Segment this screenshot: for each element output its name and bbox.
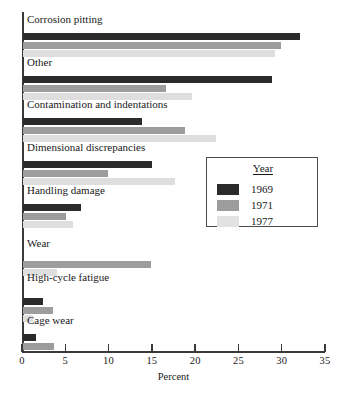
legend-title-text: Year [253, 162, 273, 175]
category-label: Cage wear [27, 315, 74, 326]
bar-group: Contamination and indentations [23, 99, 343, 141]
legend-item-1977: 1977 [217, 214, 273, 228]
bar-1971 [23, 127, 185, 134]
bar-group: Corrosion pitting [23, 14, 343, 56]
legend-label-1977: 1977 [251, 216, 273, 227]
legend-title: Year [207, 162, 319, 174]
bar-group: Cage wear [23, 315, 343, 357]
category-label: Corrosion pitting [27, 14, 102, 25]
legend-swatch-1969 [217, 184, 239, 195]
category-label: High-cycle fatigue [27, 272, 109, 283]
legend-swatch-1977 [217, 216, 239, 227]
category-label: Other [27, 57, 52, 68]
bar-1969 [23, 161, 152, 168]
bar-1969 [23, 76, 272, 83]
bar-1971 [23, 213, 66, 220]
bar-1969 [23, 334, 36, 341]
category-label: Contamination and indentations [27, 99, 168, 110]
legend-swatch-1971 [217, 200, 239, 211]
category-label: Wear [27, 238, 50, 249]
bar-1969 [23, 118, 142, 125]
legend-label-1971: 1971 [251, 200, 273, 211]
bar-1977 [23, 221, 73, 228]
legend-item-1971: 1971 [217, 198, 273, 212]
bar-1969 [23, 33, 300, 40]
bar-1977 [23, 50, 275, 57]
legend: Year 1969 1971 1977 [206, 157, 318, 227]
bar-1969 [23, 204, 81, 211]
legend-item-1969: 1969 [217, 182, 273, 196]
category-label: Dimensional discrepancies [27, 142, 145, 153]
bar-group: High-cycle fatigue [23, 272, 343, 314]
category-label: Handling damage [27, 185, 105, 196]
bar-1971 [23, 42, 281, 49]
bar-1971 [23, 261, 151, 268]
bar-1971 [23, 343, 54, 350]
legend-label-1969: 1969 [251, 184, 273, 195]
bar-chart: 05101520253035 Percent Corrosion pitting… [0, 0, 347, 401]
bar-1971 [23, 307, 53, 314]
bar-1969 [23, 298, 43, 305]
bar-1971 [23, 85, 166, 92]
x-axis-title: Percent [0, 371, 347, 382]
bar-1971 [23, 170, 108, 177]
bar-group: Other [23, 57, 343, 99]
